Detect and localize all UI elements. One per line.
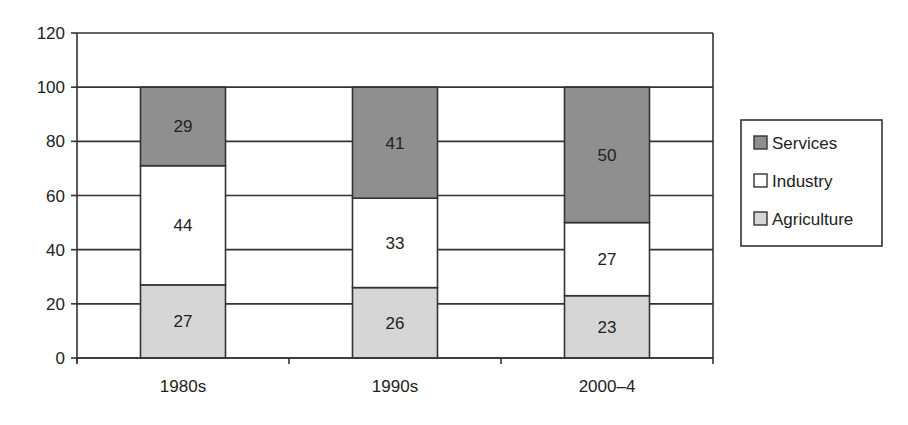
- y-tick-label: 100: [37, 78, 65, 97]
- legend-swatch-services: [754, 136, 767, 149]
- x-category-label: 1980s: [160, 377, 206, 396]
- y-tick-label: 60: [46, 187, 65, 206]
- stacked-bar-chart: 274429263341232750 020406080100120 1980s…: [0, 0, 908, 425]
- data-label: 44: [174, 216, 193, 235]
- y-axis-ticks: 020406080100120: [37, 24, 77, 368]
- data-label: 26: [386, 314, 405, 333]
- legend-swatch-industry: [754, 174, 767, 187]
- data-label: 50: [598, 146, 617, 165]
- data-label: 33: [386, 234, 405, 253]
- y-tick-label: 40: [46, 241, 65, 260]
- x-category-label: 2000–4: [579, 377, 636, 396]
- x-category-label: 1990s: [372, 377, 418, 396]
- y-tick-label: 0: [56, 349, 65, 368]
- legend-label: Services: [772, 134, 837, 153]
- legend-swatch-agriculture: [754, 212, 767, 225]
- bars: 274429263341232750: [141, 87, 650, 358]
- data-label: 27: [598, 250, 617, 269]
- data-label: 41: [386, 134, 405, 153]
- y-tick-label: 120: [37, 24, 65, 43]
- data-label: 27: [174, 312, 193, 331]
- y-tick-label: 20: [46, 295, 65, 314]
- x-axis-labels: 1980s1990s2000–4: [160, 377, 636, 396]
- legend-label: Agriculture: [772, 210, 853, 229]
- legend: ServicesIndustryAgriculture: [741, 120, 882, 246]
- y-tick-label: 80: [46, 132, 65, 151]
- data-label: 29: [174, 117, 193, 136]
- legend-label: Industry: [772, 172, 833, 191]
- data-label: 23: [598, 318, 617, 337]
